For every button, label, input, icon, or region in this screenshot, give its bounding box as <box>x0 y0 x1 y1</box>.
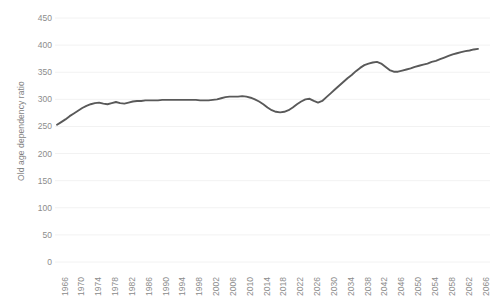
chart-container: Old age dependency ratio 050100150200250… <box>0 0 495 305</box>
data-line-old-age-dependency-ratio <box>57 49 478 125</box>
gridlines <box>55 18 490 262</box>
plot-area <box>0 0 495 305</box>
